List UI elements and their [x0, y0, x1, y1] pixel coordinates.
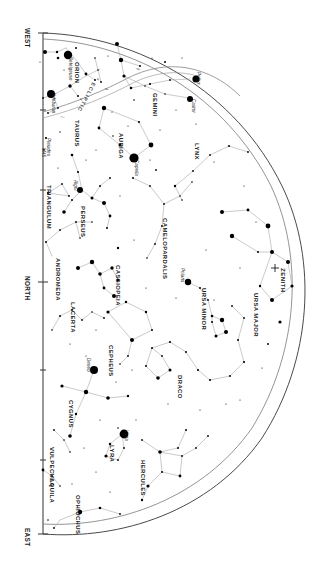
horizon-arc-inner [43, 39, 292, 524]
constellation-lines [43, 44, 292, 528]
constellation-line-camelopardalis [133, 178, 192, 258]
star-betelgeuse [64, 51, 72, 59]
constellation-line-perseus [64, 155, 110, 228]
star-aldebaran [47, 90, 55, 98]
star-vega [120, 430, 129, 439]
constellation-line-cygnus [62, 370, 128, 436]
star-castor [187, 96, 193, 102]
constellation-line-vulpecula [54, 430, 70, 452]
star-polaris [185, 279, 191, 285]
constellation-line-orion [45, 48, 101, 82]
constellation-line-andromeda [46, 222, 92, 256]
star-capella [129, 153, 138, 162]
horizon-group [38, 33, 305, 535]
constellation-line-lynx [175, 146, 248, 200]
star-deneb [90, 366, 98, 374]
sky-map [0, 0, 319, 564]
constellation-line-lacerta [52, 310, 104, 330]
constellation-line-aquila [43, 470, 60, 486]
constellation-line-ursa-major [222, 210, 292, 300]
constellation-line-gemini [117, 44, 190, 98]
constellation-line-draco [146, 306, 244, 380]
star-chart: WEST NORTH EAST ZENITH ECLIPTIC ORION TA… [0, 0, 319, 564]
horizon-arc [43, 33, 305, 535]
constellation-line-ursa-minor [188, 282, 226, 336]
star-algol [77, 187, 83, 193]
stars-group [39, 42, 293, 529]
constellation-line-triangulum [48, 184, 69, 196]
constellation-line-hercules [142, 430, 208, 500]
zenith-marker [271, 264, 279, 272]
ecliptic-group [43, 67, 240, 118]
constellation-line-auriga [99, 108, 151, 158]
star-pollux [192, 75, 199, 82]
constellation-line-ophiuchus [54, 508, 120, 528]
constellation-line-lyra [106, 434, 124, 460]
